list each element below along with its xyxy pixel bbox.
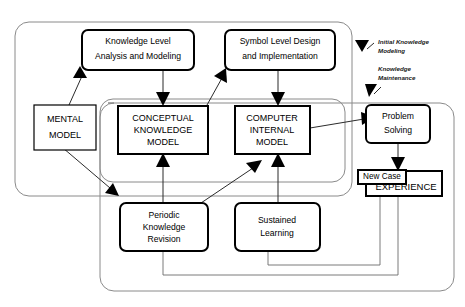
symbol-level-design-line-2: and Implementation xyxy=(242,51,318,61)
node-computer-internal-model[interactable]: COMPUTER INTERNAL MODEL xyxy=(235,106,310,154)
conceptual-knowledge-model-line-2: KNOWLEDGE xyxy=(134,125,193,135)
node-symbol-level-design[interactable]: Symbol Level Design and Implementation xyxy=(225,30,335,70)
conceptual-knowledge-model-line-1: CONCEPTUAL xyxy=(132,113,194,123)
computer-internal-model-line-3: MODEL xyxy=(256,137,288,147)
node-sustained-learning[interactable]: Sustained Learning xyxy=(235,203,320,251)
node-problem-solving[interactable]: Problem Solving xyxy=(366,105,430,143)
edge-mental-to-periodic xyxy=(63,148,119,196)
problem-solving-line-1: Problem xyxy=(382,111,414,121)
sustained-learning-line-2: Learning xyxy=(260,228,294,238)
annotation-maintenance-line-1: Knowledge xyxy=(378,65,412,72)
knowledge-modeling-diagram: Knowledge Level Analysis and Modeling Sy… xyxy=(0,0,465,307)
mental-model-line-2: MODEL xyxy=(49,130,81,140)
new-case-label: New Case xyxy=(363,172,401,181)
node-knowledge-level-analysis[interactable]: Knowledge Level Analysis and Modeling xyxy=(82,30,194,70)
annotation-initial-line-1: Initial Knowledge xyxy=(378,38,429,45)
node-new-case[interactable]: New Case xyxy=(358,170,406,184)
edge-sustained-to-computer xyxy=(271,153,285,206)
annotation-initial-line-2: Modeling xyxy=(378,47,405,54)
computer-internal-model-line-2: INTERNAL xyxy=(250,125,295,135)
annotation-maintenance-line-2: Maintenance xyxy=(378,74,416,81)
edge-periodic-to-conceptual xyxy=(156,153,170,206)
maintenance-pointer-icon xyxy=(365,84,377,97)
edge-symbol-level-to-computer xyxy=(271,70,285,106)
node-periodic-knowledge-revision[interactable]: Periodic Knowledge Revision xyxy=(120,203,208,251)
computer-internal-model-line-1: COMPUTER xyxy=(246,113,298,123)
knowledge-level-analysis-line-1: Knowledge Level xyxy=(105,36,171,46)
node-conceptual-knowledge-model[interactable]: CONCEPTUAL KNOWLEDGE MODEL xyxy=(118,106,208,154)
edge-mental-to-knowledge-level xyxy=(69,66,87,105)
annotation-knowledge-maintenance: Knowledge Maintenance xyxy=(365,65,416,97)
periodic-knowledge-revision-line-3: Revision xyxy=(148,234,181,244)
problem-solving-line-2: Solving xyxy=(384,125,412,135)
knowledge-level-analysis-line-2: Analysis and Modeling xyxy=(95,51,181,61)
symbol-level-design-line-1: Symbol Level Design xyxy=(240,36,321,46)
periodic-knowledge-revision-line-1: Periodic xyxy=(148,210,180,220)
sustained-learning-line-1: Sustained xyxy=(258,215,296,225)
periodic-knowledge-revision-line-2: Knowledge xyxy=(143,222,186,232)
conceptual-knowledge-model-line-3: MODEL xyxy=(147,137,179,147)
edge-problem-solving-to-new-case xyxy=(391,143,405,171)
mental-model-line-1: MENTAL xyxy=(47,114,83,124)
diagram-canvas: Knowledge Level Analysis and Modeling Sy… xyxy=(0,0,465,307)
node-mental-model[interactable]: MENTAL MODEL xyxy=(34,105,96,150)
initial-modeling-pointer-icon xyxy=(355,40,369,52)
annotation-initial-knowledge-modeling: Initial Knowledge Modeling xyxy=(355,38,429,54)
edge-knowledge-level-to-conceptual xyxy=(156,70,170,106)
